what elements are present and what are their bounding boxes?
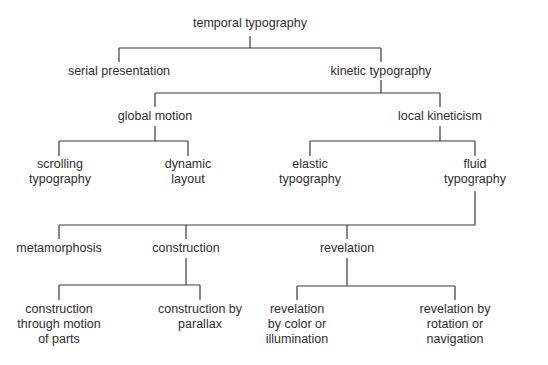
node-label: kinetic typography [331, 64, 432, 78]
node-scrolling-typography: scrolling typography [29, 157, 91, 187]
node-fluid-typography: fluid typography [444, 157, 506, 187]
node-label: construction [152, 241, 219, 255]
node-label-line: typography [29, 172, 91, 187]
node-label: metamorphosis [16, 241, 101, 255]
node-label-line: construction by [158, 302, 242, 317]
node-label-line: scrolling [29, 157, 91, 172]
node-label: serial presentation [68, 64, 170, 78]
node-label-line: rotation or [420, 317, 491, 332]
node-construction-by-parallax: construction by parallax [158, 302, 242, 332]
node-label: local kineticism [398, 109, 482, 123]
node-label-line: by color or [266, 317, 329, 332]
taxonomy-diagram: temporal typography serial presentation … [0, 0, 548, 365]
node-label-line: parallax [158, 317, 242, 332]
node-construction-through-motion-of-parts: construction through motion of parts [17, 302, 100, 347]
node-label-line: revelation by [420, 302, 491, 317]
node-metamorphosis: metamorphosis [16, 241, 101, 256]
node-label: temporal typography [193, 16, 307, 30]
node-label: global motion [118, 109, 192, 123]
node-label-line: of parts [17, 332, 100, 347]
node-dynamic-layout: dynamic layout [165, 157, 212, 187]
node-kinetic-typography: kinetic typography [331, 64, 432, 79]
node-temporal-typography: temporal typography [193, 16, 307, 31]
node-label-line: construction [17, 302, 100, 317]
node-label: revelation [320, 241, 374, 255]
node-revelation: revelation [320, 241, 374, 256]
node-revelation-by-color-or-illumination: revelation by color or illumination [266, 302, 329, 347]
node-revelation-by-rotation-or-navigation: revelation by rotation or navigation [420, 302, 491, 347]
node-label-line: typography [444, 172, 506, 187]
node-label-line: through motion [17, 317, 100, 332]
node-label-line: revelation [266, 302, 329, 317]
node-label-line: elastic [279, 157, 341, 172]
node-label-line: navigation [420, 332, 491, 347]
node-label-line: typography [279, 172, 341, 187]
node-global-motion: global motion [118, 109, 192, 124]
node-label-line: illumination [266, 332, 329, 347]
node-label-line: dynamic [165, 157, 212, 172]
node-serial-presentation: serial presentation [68, 64, 170, 79]
node-label-line: fluid [444, 157, 506, 172]
node-construction: construction [152, 241, 219, 256]
node-elastic-typography: elastic typography [279, 157, 341, 187]
node-local-kineticism: local kineticism [398, 109, 482, 124]
node-label-line: layout [165, 172, 212, 187]
